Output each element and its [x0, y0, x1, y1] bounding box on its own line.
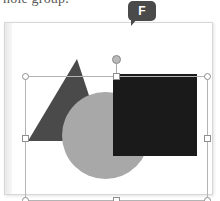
shape-layer [5, 23, 212, 194]
drawing-canvas[interactable] [4, 22, 213, 195]
shape-rectangle[interactable] [113, 74, 197, 156]
handle-bottom-center[interactable] [113, 197, 120, 201]
keyboard-shortcut-badge[interactable]: F [128, 1, 156, 25]
handle-bottom-right[interactable] [204, 197, 211, 201]
handle-bottom-left[interactable] [22, 197, 29, 201]
document-body-text: hole group. [3, 0, 69, 7]
shortcut-key-label: F [128, 1, 156, 21]
